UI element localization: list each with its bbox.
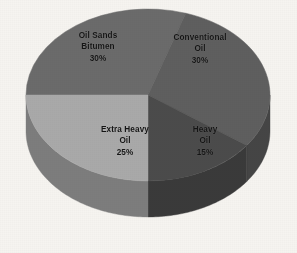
slice-label-line-name-2: Bitumen [60,41,136,52]
slice-label-value: 30% [158,55,242,66]
slice-label-value: 15% [176,147,234,158]
slice-label-line-name-1: Heavy [176,124,234,135]
slice-label-line-name-1: Extra Heavy [82,124,168,135]
slice-label-line-name-1: Conventional [158,32,242,43]
slice-label-value: 30% [60,53,136,64]
slice-label-conventional-oil: Conventional Oil 30% [158,32,242,66]
slice-label-oil-sands-bitumen: Oil Sands Bitumen 30% [60,30,136,64]
slice-label-line-name-2: Oil [176,135,234,146]
slice-label-line-name-2: Oil [82,135,168,146]
slice-label-line-name-1: Oil Sands [60,30,136,41]
slice-label-value: 25% [82,147,168,158]
slice-label-extra-heavy-oil: Extra Heavy Oil 25% [82,124,168,158]
slice-label-line-name-2: Oil [158,43,242,54]
slice-label-heavy-oil: Heavy Oil 15% [176,124,234,158]
pie-chart-figure: Oil Sands Bitumen 30% Conventional Oil 3… [0,0,297,253]
